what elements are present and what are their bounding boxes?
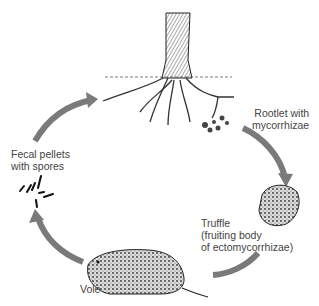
arrow-truffle-to-vole bbox=[213, 253, 258, 275]
label-truffle: Truffle (fruiting body of ectomycorrhiza… bbox=[201, 217, 293, 253]
label-rootlet: Rootlet with mycorrhizae bbox=[252, 107, 309, 131]
label-rootlet-line2: mycorrhizae bbox=[252, 119, 309, 131]
label-vole-line1: Vole bbox=[80, 283, 100, 295]
tree-icon bbox=[103, 13, 234, 133]
arrowhead-icon bbox=[86, 92, 98, 108]
label-pellets-line1: Fecal pellets bbox=[11, 148, 70, 160]
vole-icon bbox=[88, 250, 208, 297]
label-truffle-line3: of ectomycorrhizae) bbox=[201, 241, 293, 253]
arrow-vole-to-pellets bbox=[38, 218, 83, 262]
label-truffle-line1: Truffle bbox=[201, 217, 293, 229]
label-pellets: Fecal pellets with spores bbox=[11, 148, 70, 172]
label-pellets-line2: with spores bbox=[11, 160, 70, 172]
fecal-pellets-icon bbox=[20, 176, 53, 207]
mycorrhizae-cycle-diagram: Rootlet with mycorrhizae Truffle (fruiti… bbox=[0, 0, 319, 306]
arrow-rootlet-to-truffle bbox=[243, 128, 285, 178]
label-rootlet-line1: Rootlet with bbox=[252, 107, 309, 119]
label-truffle-line2: (fruiting body bbox=[201, 229, 293, 241]
arrow-pellets-to-tree bbox=[35, 100, 92, 141]
rootlet-mycorrhizae-icon bbox=[202, 116, 229, 133]
label-vole: Vole bbox=[80, 283, 100, 295]
